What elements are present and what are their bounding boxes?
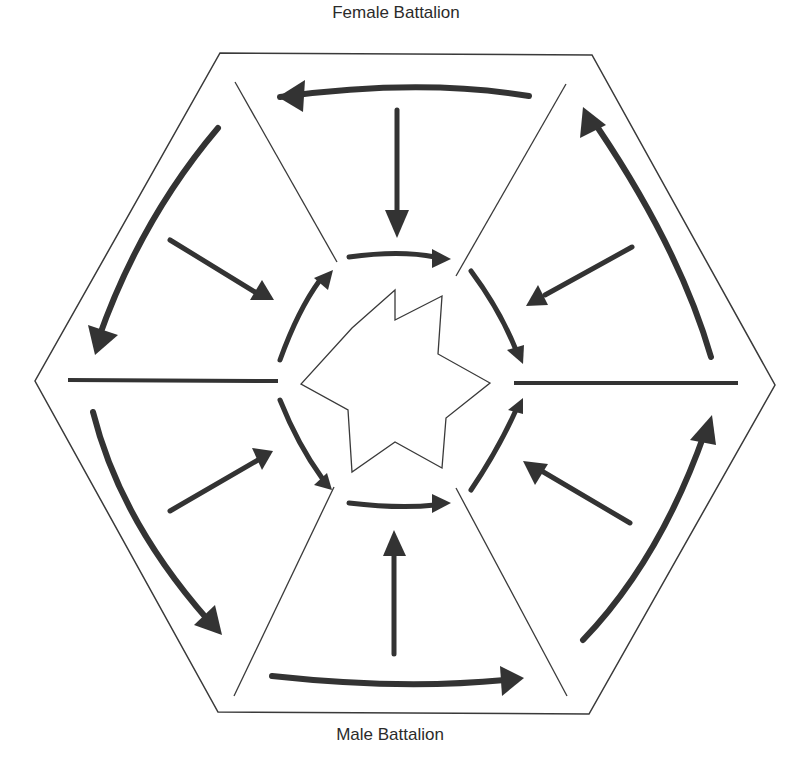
inner-upper-left-arrow-icon	[280, 270, 333, 360]
top-inward-arrow-icon	[385, 110, 409, 238]
thin-divider-3	[456, 488, 567, 696]
inner-lower-left-arrow-icon	[280, 400, 332, 490]
upper-right-inward-arrow-icon	[526, 247, 632, 306]
inner-upper-right-arrow-icon	[471, 271, 524, 364]
thick-divider-0	[68, 380, 278, 381]
bottom-inward-arrow-icon	[383, 530, 406, 654]
lower-left-inward-arrow-icon	[170, 448, 273, 511]
thin-divider-1	[456, 84, 566, 276]
battalion-diagram	[0, 0, 798, 766]
inner-lower-right-arrow-icon	[471, 398, 523, 490]
inner-top-arrow-icon	[349, 249, 451, 268]
bottom-label-male-battalion: Male Battalion	[336, 725, 444, 745]
thin-divider-0	[235, 82, 337, 262]
upper-left-outer-arrow-icon	[88, 128, 218, 355]
lower-right-inward-arrow-icon	[523, 461, 630, 523]
upper-left-inward-arrow-icon	[170, 240, 274, 300]
top-label-female-battalion: Female Battalion	[332, 3, 460, 23]
center-star	[301, 290, 490, 472]
bottom-outer-arrow-icon	[272, 666, 524, 696]
upper-right-outer-arrow-icon	[580, 107, 711, 357]
top-outer-arrow-icon	[278, 80, 529, 112]
inner-bottom-arrow-icon	[349, 494, 451, 513]
thin-divider-2	[234, 487, 334, 696]
